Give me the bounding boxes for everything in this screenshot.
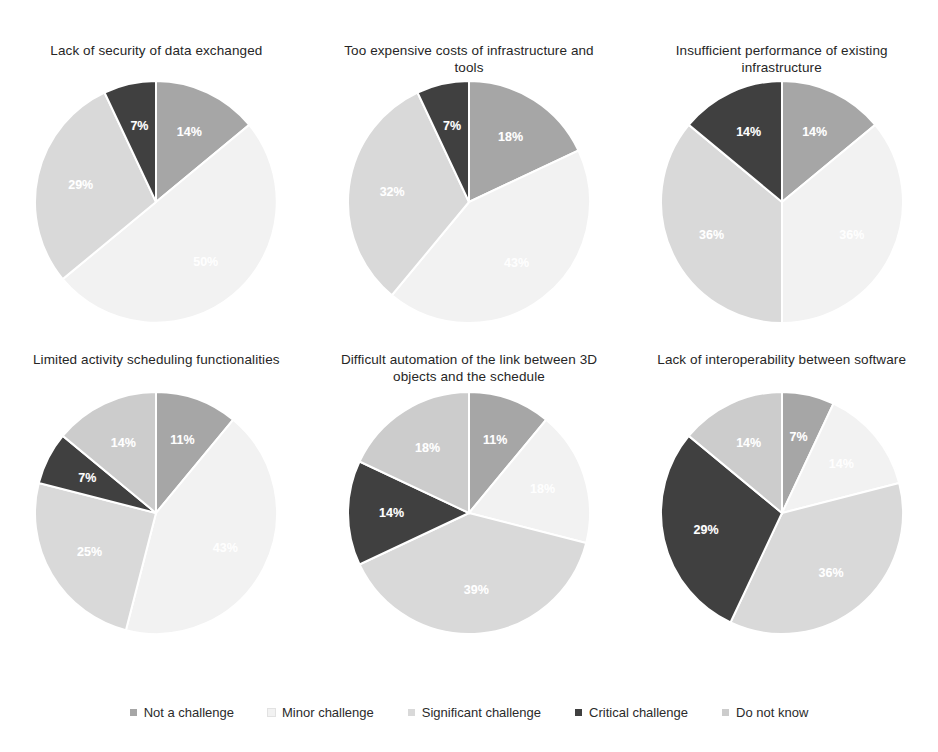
chart-title: Limited activity scheduling functionalit…: [33, 351, 280, 387]
legend-label: Critical challenge: [589, 705, 688, 720]
legend-swatch-icon: [575, 709, 582, 716]
chart-row-bottom: Limited activity scheduling functionalit…: [0, 343, 938, 686]
chart-title: Insufficient performance of existing inf…: [643, 42, 921, 78]
pie-chart-cell-5: Lack of interoperability between softwar…: [625, 343, 938, 686]
legend-swatch-icon: [408, 709, 415, 716]
pie-graphic: [658, 78, 906, 326]
legend-item-not-a-challenge: Not a challenge: [130, 705, 234, 720]
legend-label: Significant challenge: [422, 705, 541, 720]
chart-title: Too expensive costs of infrastructure an…: [330, 42, 608, 78]
pie-canvas: 11%18%39%14%18%: [345, 389, 593, 637]
pie-canvas: 14%36%36%14%: [658, 78, 906, 326]
legend-label: Minor challenge: [282, 705, 374, 720]
pie-canvas: 18%43%32%7%: [345, 78, 593, 326]
chart-row-top: Lack of security of data exchanged 14%50…: [0, 0, 938, 343]
legend-label: Not a challenge: [144, 705, 234, 720]
pie-canvas: 14%50%29%7%: [32, 78, 280, 326]
legend-item-critical-challenge: Critical challenge: [575, 705, 688, 720]
chart-title: Difficult automation of the link between…: [330, 351, 608, 387]
chart-title: Lack of interoperability between softwar…: [657, 351, 906, 387]
pie-graphic: [658, 389, 906, 637]
pie-chart-cell-4: Difficult automation of the link between…: [313, 343, 626, 686]
pie-canvas: 7%14%36%29%14%: [658, 389, 906, 637]
chart-grid: Lack of security of data exchanged 14%50…: [0, 0, 938, 686]
pie-graphic: [32, 78, 280, 326]
pie-chart-figure: Lack of security of data exchanged 14%50…: [0, 0, 938, 752]
legend-label: Do not know: [736, 705, 808, 720]
pie-graphic: [345, 78, 593, 326]
chart-title: Lack of security of data exchanged: [50, 42, 262, 78]
legend-swatch-icon: [268, 709, 275, 716]
pie-chart-cell-1: Too expensive costs of infrastructure an…: [313, 0, 626, 343]
chart-legend: Not a challenge Minor challenge Signific…: [0, 686, 938, 752]
legend-swatch-icon: [130, 709, 137, 716]
legend-swatch-icon: [722, 709, 729, 716]
pie-chart-cell-2: Insufficient performance of existing inf…: [625, 0, 938, 343]
pie-graphic: [32, 389, 280, 637]
pie-chart-cell-3: Limited activity scheduling functionalit…: [0, 343, 313, 686]
legend-item-do-not-know: Do not know: [722, 705, 808, 720]
pie-chart-cell-0: Lack of security of data exchanged 14%50…: [0, 0, 313, 343]
legend-item-minor-challenge: Minor challenge: [268, 705, 374, 720]
legend-item-significant-challenge: Significant challenge: [408, 705, 541, 720]
pie-canvas: 11%43%25%7%14%: [32, 389, 280, 637]
pie-graphic: [345, 389, 593, 637]
